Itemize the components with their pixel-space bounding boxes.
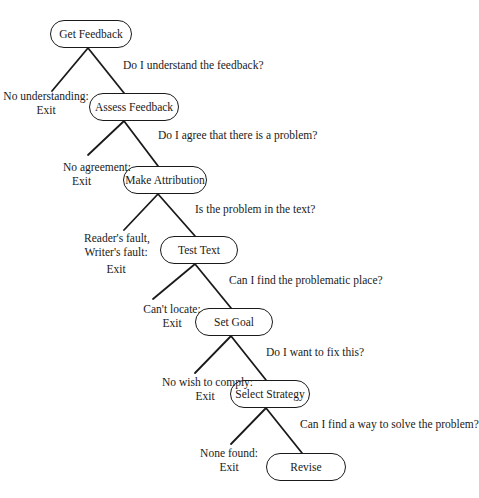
question-want-fix: Do I want to fix this? [266, 346, 364, 358]
node-label: Assess Feedback [95, 101, 173, 113]
exit-reason: No understanding: [0, 89, 92, 103]
question-find-way: Can I find a way to solve the problem? [300, 418, 479, 430]
question-understand: Do I understand the feedback? [123, 59, 264, 71]
exit-label: Exit [84, 262, 148, 276]
node-label: Test Text [178, 244, 220, 256]
exit-reason: No wish to comply: [162, 375, 248, 389]
node-test-text: Test Text [160, 236, 238, 264]
node-label: Make Attribution [125, 174, 205, 186]
exit-cant-locate: Can't locate: Exit [138, 302, 206, 330]
exit-no-understanding: No understanding: Exit [0, 89, 92, 117]
exit-reason: Can't locate: [138, 302, 206, 316]
exit-label: Exit [162, 389, 248, 403]
node-assess-feedback: Assess Feedback [89, 93, 179, 121]
exit-no-agreement: No agreement: Exit [62, 160, 132, 188]
exit-reason: None found: [200, 446, 258, 460]
node-revise: Revise [266, 453, 346, 481]
node-make-attribution: Make Attribution [123, 166, 207, 194]
node-label: Get Feedback [59, 28, 123, 40]
exit-label: Exit [138, 316, 206, 330]
exit-label: Exit [0, 103, 92, 117]
question-in-text: Is the problem in the text? [195, 203, 315, 215]
exit-none-found: None found: Exit [200, 446, 258, 474]
node-set-goal: Set Goal [195, 308, 273, 336]
exit-label: Exit [62, 174, 132, 188]
exit-no-wish: No wish to comply: Exit [162, 375, 248, 403]
exit-reason: Reader's fault, [84, 231, 148, 245]
node-label: Revise [290, 461, 321, 473]
question-agree: Do I agree that there is a problem? [158, 129, 317, 141]
question-find-place: Can I find the problematic place? [229, 274, 383, 286]
exit-readers-writers-fault: Reader's fault, Writer's fault: Exit [84, 231, 148, 276]
exit-label: Exit [200, 460, 258, 474]
node-label: Set Goal [214, 316, 254, 328]
exit-reason: No agreement: [62, 160, 132, 174]
exit-reason: Writer's fault: [84, 245, 148, 259]
node-get-feedback: Get Feedback [50, 20, 132, 48]
